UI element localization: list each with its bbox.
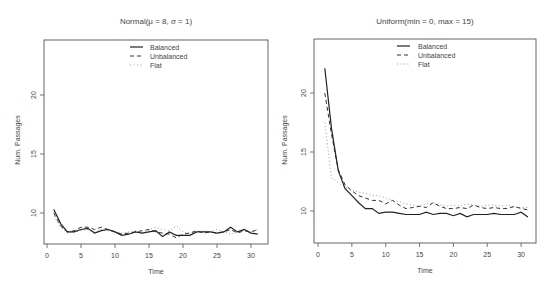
x-tick-label: 30 (247, 252, 255, 259)
x-tick-label: 10 (111, 252, 119, 259)
x-axis-label: Time (417, 267, 432, 274)
y-tick-label: 10 (30, 209, 37, 217)
series-line-balanced (54, 210, 258, 237)
data-lines (325, 68, 528, 217)
x-tick-label: 25 (483, 251, 491, 258)
x-axis: 051015202530 (316, 243, 525, 258)
panel-title: Normal(μ = 8, σ = 1) (120, 17, 193, 26)
legend: Balanced Unbalanced Flat (397, 43, 455, 68)
legend-label-flat: Flat (418, 61, 430, 68)
legend-label-unbalanced: Unbalanced (150, 53, 187, 60)
series-line-unbalanced (325, 93, 528, 210)
panel-uniform: Uniform(min = 0, max = 15) Time Num. Pas… (281, 17, 536, 274)
x-tick-label: 0 (45, 252, 49, 259)
x-tick-label: 15 (145, 252, 153, 259)
figure: Normal(μ = 8, σ = 1) Time Num. Passages … (0, 0, 548, 286)
y-axis: 101520 (30, 91, 44, 217)
legend-label-balanced: Balanced (150, 44, 179, 51)
y-tick-label: 10 (300, 207, 307, 215)
x-axis: 051015202530 (45, 244, 255, 259)
x-tick-label: 20 (179, 252, 187, 259)
legend: Balanced Unbalanced Flat (130, 44, 187, 69)
x-tick-label: 10 (382, 251, 390, 258)
y-tick-label: 20 (30, 91, 37, 99)
x-tick-label: 20 (450, 251, 458, 258)
panel-normal: Normal(μ = 8, σ = 1) Time Num. Passages … (14, 17, 268, 275)
data-lines (54, 210, 258, 238)
series-line-balanced (325, 68, 528, 217)
x-tick-label: 30 (517, 251, 525, 258)
y-tick-label: 20 (300, 89, 307, 97)
x-tick-label: 25 (213, 252, 221, 259)
x-tick-label: 0 (316, 251, 320, 258)
legend-label-unbalanced: Unbalanced (418, 52, 455, 59)
x-axis-label: Time (148, 268, 163, 275)
y-tick-label: 15 (300, 148, 307, 156)
legend-label-flat: Flat (150, 62, 162, 69)
x-tick-label: 5 (350, 251, 354, 258)
panel-title: Uniform(min = 0, max = 15) (376, 17, 474, 26)
series-line-flat (325, 123, 528, 208)
y-axis-label: Num. Passages (14, 115, 22, 165)
y-axis: 101520 (300, 89, 314, 215)
x-tick-label: 5 (79, 252, 83, 259)
y-tick-label: 15 (30, 150, 37, 158)
series-line-unbalanced (54, 213, 258, 238)
y-axis-label: Num. Passages (281, 115, 289, 165)
x-tick-label: 15 (416, 251, 424, 258)
legend-label-balanced: Balanced (418, 43, 447, 50)
plot-frame (44, 40, 268, 244)
